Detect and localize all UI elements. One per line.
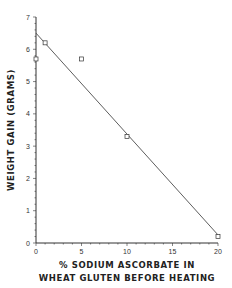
data-point-square: [80, 57, 84, 61]
y-tick-label: 7: [26, 14, 30, 21]
y-tick-label: 5: [26, 78, 30, 85]
x-tick-label: 0: [34, 248, 38, 255]
x-tick-label: 5: [80, 248, 84, 255]
y-tick-label: 3: [26, 143, 30, 150]
x-tick-label: 20: [214, 248, 222, 255]
fit-line: [36, 33, 218, 235]
x-tick-label: 15: [169, 248, 177, 255]
chart: 0123456705101520 WEIGHT GAIN (GRAMS) % S…: [0, 0, 232, 288]
regression-line: [36, 33, 218, 235]
data-point-square: [43, 41, 47, 45]
axis-ticks: 0123456705101520: [26, 14, 222, 256]
data-points: [34, 41, 220, 239]
y-tick-label: 2: [26, 175, 30, 182]
data-point-square: [216, 235, 220, 239]
data-point-square: [34, 57, 38, 61]
x-tick-label: 10: [123, 248, 131, 255]
y-tick-label: 1: [26, 207, 30, 214]
y-tick-label: 6: [26, 46, 30, 53]
data-point-square: [125, 134, 129, 138]
x-axis-title-line1: % SODIUM ASCORBATE IN: [59, 260, 195, 270]
y-axis-title: WEIGHT GAIN (GRAMS): [6, 69, 16, 191]
y-tick-label: 4: [26, 110, 30, 117]
x-axis-title-line2: WHEAT GLUTEN BEFORE HEATING: [39, 273, 215, 283]
axes: [36, 17, 218, 243]
y-tick-label: 0: [26, 240, 30, 247]
